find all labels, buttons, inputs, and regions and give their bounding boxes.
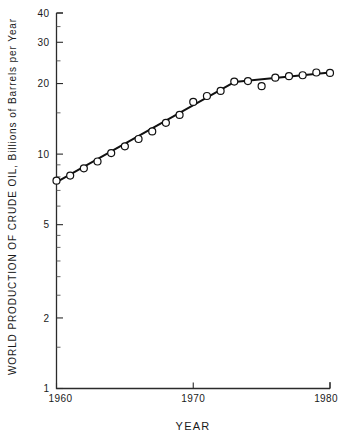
data-point bbox=[313, 69, 320, 76]
y-tick-label: 30 bbox=[38, 37, 50, 48]
chart-figure: WORLD PRODUCTION OF CRUDE OIL, Billions … bbox=[0, 0, 344, 438]
y-tick-label: 2 bbox=[44, 313, 50, 324]
x-axis-ticks bbox=[57, 383, 331, 389]
data-point bbox=[285, 73, 292, 80]
data-point bbox=[327, 69, 334, 76]
data-point bbox=[272, 74, 279, 81]
y-tick-label: 10 bbox=[38, 149, 50, 160]
data-point bbox=[217, 87, 224, 94]
data-point bbox=[162, 119, 169, 126]
x-axis-title-text: YEAR bbox=[176, 420, 211, 432]
data-point bbox=[176, 111, 183, 118]
x-tick-label: 1960 bbox=[49, 393, 73, 404]
data-point bbox=[231, 78, 238, 85]
data-point bbox=[67, 172, 74, 179]
data-point bbox=[244, 78, 251, 85]
data-point bbox=[299, 72, 306, 79]
chart-svg: WORLD PRODUCTION OF CRUDE OIL, Billions … bbox=[0, 0, 344, 438]
x-axis-tick-labels: 196019701980 bbox=[49, 393, 339, 404]
data-point bbox=[108, 150, 115, 157]
data-point bbox=[121, 143, 128, 150]
trend-lines bbox=[57, 72, 331, 182]
axis-lines bbox=[57, 13, 331, 389]
y-axis-ticks bbox=[57, 13, 64, 389]
y-tick-label: 20 bbox=[38, 78, 50, 89]
data-point bbox=[203, 92, 210, 99]
y-tick-label: 5 bbox=[44, 219, 50, 230]
outlier-markers bbox=[258, 83, 265, 90]
x-tick-label: 1970 bbox=[181, 393, 205, 404]
data-point-markers bbox=[53, 69, 334, 184]
y-tick-label: 40 bbox=[38, 8, 50, 19]
data-point bbox=[135, 136, 142, 143]
y-axis-title-text: WORLD PRODUCTION OF CRUDE OIL, Billions … bbox=[7, 18, 18, 375]
x-tick-label: 1980 bbox=[314, 393, 338, 404]
data-point bbox=[190, 98, 197, 105]
data-point bbox=[53, 177, 60, 184]
data-point bbox=[80, 165, 87, 172]
y-axis-tick-labels: 12510203040 bbox=[38, 8, 50, 395]
outlier-data-point bbox=[258, 83, 265, 90]
axis-frame bbox=[57, 13, 331, 389]
data-point bbox=[94, 158, 101, 165]
y-axis-title: WORLD PRODUCTION OF CRUDE OIL, Billions … bbox=[7, 18, 18, 375]
data-point bbox=[149, 128, 156, 135]
